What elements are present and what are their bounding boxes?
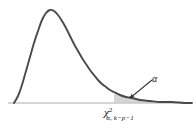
critical-value-label: χ2α, k−p−1: [104, 106, 140, 121]
alpha-label: α: [152, 74, 157, 84]
chi-subscript: α, k−p−1: [106, 114, 134, 122]
chi-squared-figure: α χ2α, k−p−1: [0, 0, 196, 131]
alpha-leader-arrow: [130, 80, 152, 98]
chi-superscript: 2: [109, 106, 113, 114]
density-curve: [14, 10, 192, 103]
distribution-plot: [0, 0, 196, 131]
